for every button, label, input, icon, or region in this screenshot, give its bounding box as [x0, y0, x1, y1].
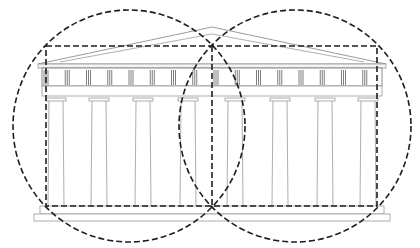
column-capital	[89, 98, 109, 101]
stylobate-step	[34, 214, 390, 221]
column-shaft	[272, 101, 288, 206]
diagram-canvas	[0, 0, 420, 248]
column-capital	[178, 98, 198, 101]
column-capital	[270, 98, 290, 101]
column-shaft	[135, 101, 151, 206]
column-shaft	[48, 101, 64, 206]
column-capital	[46, 98, 66, 101]
column-capital	[133, 98, 153, 101]
column-capital	[358, 98, 378, 101]
column-shaft	[360, 101, 376, 206]
column-shaft	[91, 101, 107, 206]
column-shaft	[227, 101, 243, 206]
column-shaft	[317, 101, 333, 206]
parthenon-diagram	[0, 0, 420, 248]
column-capital	[315, 98, 335, 101]
